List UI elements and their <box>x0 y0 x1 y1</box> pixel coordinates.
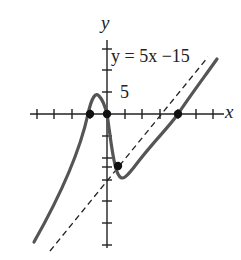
y-axis-label: y <box>101 12 109 34</box>
point-x-intercept-neg1 <box>86 110 94 118</box>
tick-label-5: 5 <box>120 82 129 103</box>
asymptote-line <box>50 57 208 251</box>
point-y-neg12 <box>114 162 122 170</box>
x-axis-label: x <box>225 101 233 123</box>
asymptote-equation-label: y = 5x −15 <box>111 46 190 67</box>
x-axis <box>30 109 224 119</box>
graph <box>0 0 241 260</box>
point-origin <box>103 110 111 118</box>
point-x-intercept-4 <box>174 110 182 118</box>
